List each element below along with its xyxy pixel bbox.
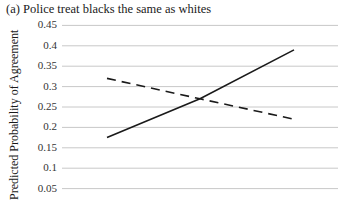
- series-line-dashed: [107, 78, 294, 119]
- plot-area: [0, 0, 354, 200]
- series-line-solid: [107, 50, 294, 138]
